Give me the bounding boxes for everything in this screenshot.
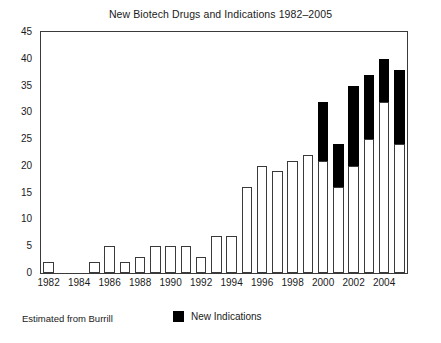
y-axis-tick-label: 15 xyxy=(21,188,32,198)
bar-segment-new-drugs xyxy=(43,262,54,273)
bar-segment-new-drugs xyxy=(181,246,192,273)
bar-segment-new-drugs xyxy=(257,166,268,273)
y-axis-tick-label: 5 xyxy=(26,241,32,251)
x-axis-tick-label: 1998 xyxy=(282,277,304,288)
bar-segment-new-drugs xyxy=(272,171,283,273)
y-axis-tick-label: 20 xyxy=(21,161,32,171)
bar-segment-new-drugs xyxy=(104,246,115,273)
bar-2000 xyxy=(318,102,329,273)
chart-title: New Biotech Drugs and Indications 1982–2… xyxy=(0,8,441,20)
y-axis-tick-label: 35 xyxy=(21,81,32,91)
bar-1999 xyxy=(303,155,314,273)
bar-segment-new-indications xyxy=(318,102,329,161)
bar-segment-new-indications xyxy=(348,86,359,166)
bar-segment-new-drugs xyxy=(318,161,329,273)
bar-segment-new-drugs xyxy=(242,187,253,273)
source-note: Estimated from Burrill xyxy=(22,313,113,324)
bar-segment-new-drugs xyxy=(120,262,131,273)
bar-segment-new-drugs xyxy=(287,161,298,273)
x-axis-tick-label: 1990 xyxy=(160,277,182,288)
bar-segment-new-drugs xyxy=(211,236,222,273)
x-axis-tick-label: 1988 xyxy=(129,277,151,288)
chart-figure: New Biotech Drugs and Indications 1982–2… xyxy=(0,0,441,343)
x-axis-tick-label: 1982 xyxy=(38,277,60,288)
bar-segment-new-drugs xyxy=(364,139,375,273)
x-axis: 1982198419861988199019921994199619982000… xyxy=(41,277,407,293)
y-axis-tick-label: 30 xyxy=(21,107,32,117)
y-axis-tick-label: 10 xyxy=(21,214,32,224)
bar-1985 xyxy=(89,262,100,273)
bar-1982 xyxy=(43,262,54,273)
bar-2001 xyxy=(333,144,344,273)
bar-2004 xyxy=(379,59,390,273)
bar-segment-new-drugs xyxy=(89,262,100,273)
bar-segment-new-drugs xyxy=(394,144,405,273)
y-axis-tick-label: 25 xyxy=(21,134,32,144)
bar-1996 xyxy=(257,166,268,273)
bar-segment-new-drugs xyxy=(196,257,207,273)
bar-segment-new-drugs xyxy=(348,166,359,273)
bar-2005 xyxy=(394,70,405,274)
bar-1997 xyxy=(272,171,283,273)
bar-2003 xyxy=(364,75,375,273)
bar-segment-new-drugs xyxy=(165,246,176,273)
bar-segment-new-drugs xyxy=(303,155,314,273)
bar-1990 xyxy=(165,246,176,273)
x-axis-tick-label: 2004 xyxy=(373,277,395,288)
bar-1986 xyxy=(104,246,115,273)
plot-area xyxy=(41,32,407,273)
bar-segment-new-indications xyxy=(379,59,390,102)
y-axis: 051015202530354045 xyxy=(0,31,36,274)
x-axis-tick-label: 2002 xyxy=(343,277,365,288)
y-axis-tick-label: 40 xyxy=(21,54,32,64)
bar-1993 xyxy=(211,236,222,273)
x-axis-tick-label: 2000 xyxy=(312,277,334,288)
bar-1987 xyxy=(120,262,131,273)
x-axis-tick-label: 1984 xyxy=(68,277,90,288)
bar-1988 xyxy=(135,257,146,273)
bar-1992 xyxy=(196,257,207,273)
bar-1994 xyxy=(226,236,237,273)
bar-segment-new-drugs xyxy=(150,246,161,273)
bar-2002 xyxy=(348,86,359,273)
bar-segment-new-drugs xyxy=(226,236,237,273)
x-axis-tick-label: 1994 xyxy=(221,277,243,288)
y-axis-tick-label: 45 xyxy=(21,27,32,37)
bar-1991 xyxy=(181,246,192,273)
x-axis-tick-label: 1986 xyxy=(99,277,121,288)
bar-1998 xyxy=(287,161,298,273)
bar-1989 xyxy=(150,246,161,273)
legend-swatch-new-indications xyxy=(173,311,184,322)
bar-segment-new-drugs xyxy=(379,102,390,273)
x-axis-tick-label: 1996 xyxy=(251,277,273,288)
bar-segment-new-drugs xyxy=(333,187,344,273)
chart-legend: New Indications xyxy=(173,311,262,322)
bar-1995 xyxy=(242,187,253,273)
bar-segment-new-indications xyxy=(333,144,344,187)
bar-segment-new-drugs xyxy=(135,257,146,273)
x-axis-tick-label: 1992 xyxy=(190,277,212,288)
legend-label-new-indications: New Indications xyxy=(191,311,262,322)
bar-segment-new-indications xyxy=(364,75,375,139)
bar-segment-new-indications xyxy=(394,70,405,145)
y-axis-tick-label: 0 xyxy=(26,268,32,278)
